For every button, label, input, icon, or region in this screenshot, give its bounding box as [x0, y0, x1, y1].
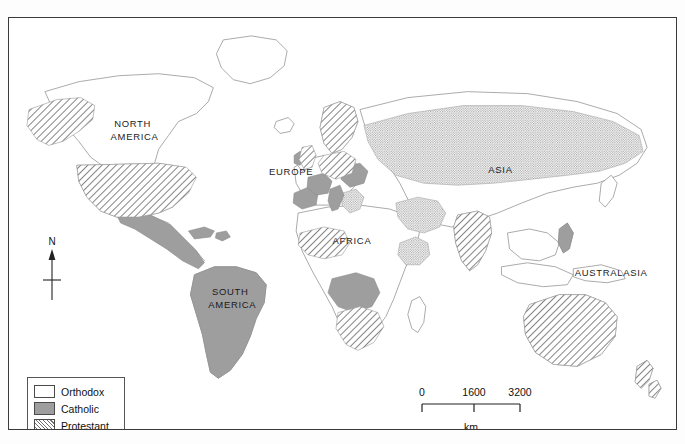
legend-swatch-catholic: [34, 402, 55, 415]
scale-tick-1: 1600: [462, 386, 485, 398]
map-figure: NORTH AMERICA SOUTH AMERICA EUROPE AFRIC…: [0, 0, 685, 444]
scale-tick-0: 0: [419, 386, 425, 398]
scale-tick-2: 3200: [508, 386, 531, 398]
map-legend: Orthodox Catholic Protestant: [27, 377, 125, 430]
world-map-canvas: NORTH AMERICA SOUTH AMERICA EUROPE AFRIC…: [9, 18, 676, 429]
map-frame: NORTH AMERICA SOUTH AMERICA EUROPE AFRIC…: [8, 17, 677, 430]
legend-swatch-orthodox: [34, 385, 55, 398]
scale-bar-glyph: [417, 400, 552, 422]
legend-item-orthodox: Orthodox: [34, 383, 118, 400]
legend-label-catholic: Catholic: [61, 403, 99, 415]
legend-item-catholic: Catholic: [34, 400, 118, 417]
legend-item-protestant: Protestant: [34, 417, 118, 430]
legend-swatch-protestant: [34, 419, 55, 430]
legend-label-protestant: Protestant: [61, 420, 109, 431]
scale-bar: 0 1600 3200 km: [417, 386, 552, 430]
legend-label-orthodox: Orthodox: [61, 386, 104, 398]
north-arrow: N: [39, 236, 65, 302]
scale-bar-tick-labels: 0 1600 3200: [417, 386, 552, 399]
north-arrow-label: N: [39, 236, 65, 247]
scale-bar-unit: km: [464, 421, 478, 430]
